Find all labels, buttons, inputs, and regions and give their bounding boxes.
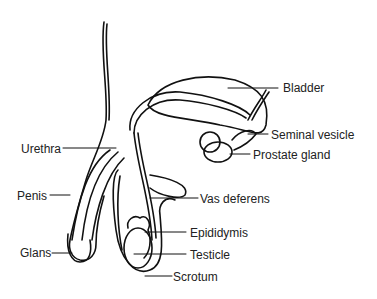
- label-penis: Penis: [17, 189, 47, 203]
- epididymis-shape: [128, 217, 150, 258]
- anatomy-diagram: Bladder Seminal vesicle Prostate gland U…: [0, 0, 377, 299]
- label-seminal-vesicle: Seminal vesicle: [271, 128, 354, 142]
- label-scrotum: Scrotum: [173, 270, 218, 284]
- label-epididymis: Epididymis: [190, 226, 248, 240]
- label-bladder: Bladder: [283, 81, 324, 95]
- testicle-shape: [124, 228, 152, 268]
- label-prostate-gland: Prostate gland: [253, 148, 330, 162]
- label-glans: Glans: [20, 246, 51, 260]
- label-urethra: Urethra: [21, 142, 61, 156]
- label-testicle: Testicle: [190, 248, 230, 262]
- bladder-shape: [148, 77, 267, 133]
- label-vas-deferens: Vas deferens: [200, 192, 270, 206]
